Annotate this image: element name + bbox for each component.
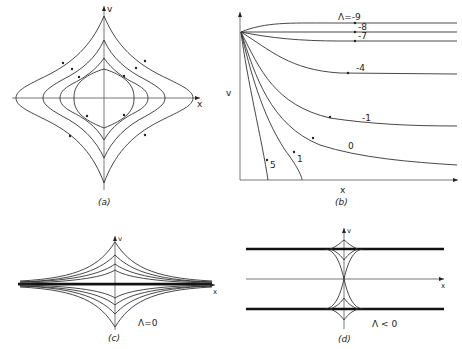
- curve-lambda-5: [241, 32, 268, 180]
- panel-caption: (b): [335, 197, 348, 207]
- curve-label: 0: [348, 141, 354, 151]
- orbit-lower-2: [20, 286, 212, 314]
- x-axis-arrow-icon: [439, 277, 444, 281]
- panel-caption: (c): [108, 333, 120, 343]
- curve-lambda-neg1: [241, 32, 457, 126]
- curve-label: -7: [358, 31, 367, 41]
- x-axis-label: x: [197, 99, 203, 109]
- panel-b: Λ=-9 -8 -7 -4 -1 0 1 5 v x (b): [226, 12, 458, 207]
- x-axis-label: x: [340, 185, 346, 195]
- orbit-lower-3: [20, 286, 212, 305]
- x-axis-label: x: [213, 288, 217, 296]
- orbit-upper-3: [20, 264, 212, 282]
- panel-d: v x Λ < 0 (d): [246, 227, 445, 344]
- y-axis-arrow-icon: [238, 12, 242, 17]
- orbit-lower-1: [20, 287, 212, 327]
- condition-label: Λ=0: [138, 318, 158, 328]
- panel-a: v x (a): [12, 4, 203, 207]
- y-axis-label: v: [226, 88, 232, 98]
- y-axis-label: v: [347, 227, 351, 235]
- orbit-upper-1: [20, 242, 212, 281]
- curve-lambda-neg9: [241, 23, 457, 32]
- panel-c: v x Λ=0 (c): [18, 235, 217, 343]
- panel-caption: (a): [98, 197, 111, 207]
- figure-canvas: v x (a) Λ=-9 -8 -7 -4 -1 0 1 5 v x (b): [0, 0, 462, 349]
- condition-label: Λ < 0: [372, 319, 397, 329]
- curve-lambda-1: [241, 32, 302, 180]
- curve-label: -1: [362, 113, 371, 123]
- panel-caption: (d): [338, 334, 351, 344]
- x-axis-label: x: [441, 282, 445, 290]
- y-axis-arrow-icon: [102, 6, 106, 11]
- curve-label: -4: [356, 63, 365, 73]
- curve-lambda-neg7: [241, 32, 457, 41]
- curve-label: 1: [297, 154, 303, 164]
- curve-label: 5: [270, 160, 276, 170]
- curve-lambda-neg4: [241, 32, 457, 74]
- x-axis-arrow-icon: [453, 178, 458, 182]
- y-axis-arrow-icon: [342, 228, 346, 233]
- y-axis-label: v: [107, 4, 113, 14]
- y-axis-arrow-icon: [113, 236, 117, 241]
- y-axis-label: v: [118, 235, 122, 243]
- curve-label: Λ=-9: [338, 12, 361, 22]
